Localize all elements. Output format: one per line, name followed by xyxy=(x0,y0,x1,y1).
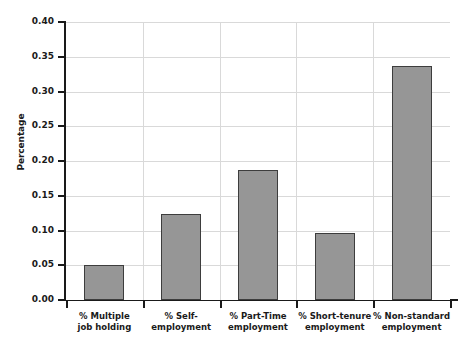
x-category-label-line: job holding xyxy=(62,322,147,333)
y-tick-mark xyxy=(58,125,66,127)
y-tick-label: 0.05 xyxy=(14,259,54,269)
x-category-label: % Short-tenureemployment xyxy=(292,311,377,333)
bar xyxy=(392,66,432,300)
y-tick-label: 0.10 xyxy=(14,225,54,235)
x-category-label-line: employment xyxy=(369,322,454,333)
y-tick-mark xyxy=(58,264,66,266)
x-category-label-line: % Self- xyxy=(139,311,224,322)
bar xyxy=(315,233,355,300)
bar xyxy=(84,265,124,300)
bar xyxy=(161,214,201,300)
y-axis-title: Percentage xyxy=(16,102,26,182)
x-category-label-line: % Non-standard xyxy=(369,311,454,322)
gridline-vertical xyxy=(220,22,221,300)
x-tick-mark xyxy=(143,300,145,308)
y-tick-mark xyxy=(58,230,66,232)
x-category-label: % Non-standardemployment xyxy=(369,311,454,333)
x-category-label: % Self-employment xyxy=(139,311,224,333)
x-category-label: % Part-Timeemployment xyxy=(216,311,301,333)
y-tick-mark xyxy=(58,299,66,301)
plot-area xyxy=(66,22,450,300)
gridline-horizontal xyxy=(66,22,450,23)
x-category-label-line: employment xyxy=(216,322,301,333)
y-tick-label: 0.25 xyxy=(14,120,54,130)
y-tick-mark xyxy=(58,21,66,23)
bar xyxy=(238,170,278,300)
bar-chart-figure: Percentage 0.000.050.100.150.200.250.300… xyxy=(0,0,471,349)
x-category-label-line: % Multiple xyxy=(62,311,147,322)
x-tick-mark xyxy=(220,300,222,308)
x-tick-mark xyxy=(373,300,375,308)
x-category-label-line: employment xyxy=(292,322,377,333)
y-tick-label: 0.00 xyxy=(14,294,54,304)
x-category-label-line: employment xyxy=(139,322,224,333)
y-tick-label: 0.40 xyxy=(14,16,54,26)
x-category-label: % Multiplejob holding xyxy=(62,311,147,333)
x-category-label-line: % Part-Time xyxy=(216,311,301,322)
gridline-vertical xyxy=(296,22,297,300)
y-tick-label: 0.35 xyxy=(14,51,54,61)
y-tick-mark xyxy=(58,91,66,93)
gridline-vertical xyxy=(143,22,144,300)
x-category-label-line: % Short-tenure xyxy=(292,311,377,322)
x-tick-mark xyxy=(450,300,452,308)
y-tick-label: 0.15 xyxy=(14,190,54,200)
gridline-horizontal xyxy=(66,57,450,58)
y-tick-mark xyxy=(58,160,66,162)
y-tick-mark xyxy=(58,195,66,197)
y-tick-label: 0.20 xyxy=(14,155,54,165)
x-tick-mark xyxy=(66,300,68,308)
y-tick-label: 0.30 xyxy=(14,86,54,96)
y-tick-mark xyxy=(58,56,66,58)
x-tick-mark xyxy=(296,300,298,308)
gridline-vertical xyxy=(373,22,374,300)
